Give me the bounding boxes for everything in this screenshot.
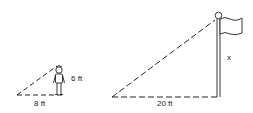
small-hypotenuse-line (17, 66, 57, 95)
diagram: 6 ft 8 ft x 20 ft (0, 0, 253, 113)
person-shadow-label: 8 ft (34, 99, 46, 108)
large-triangle (112, 20, 217, 97)
person-icon (54, 66, 65, 95)
pole-shadow-label: 20 ft (157, 99, 173, 108)
pole-height-label: x (227, 53, 231, 62)
large-hypotenuse-line (112, 20, 215, 97)
person-height-label: 6 ft (71, 74, 83, 83)
flag-icon (220, 18, 242, 35)
